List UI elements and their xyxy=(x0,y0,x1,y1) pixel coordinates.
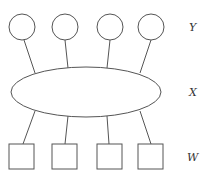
square-node-3 xyxy=(97,144,122,169)
edge-bottom-1 xyxy=(23,111,35,144)
circle-node-3 xyxy=(97,14,123,40)
square-node-2 xyxy=(52,144,77,169)
circle-node-1 xyxy=(9,14,35,40)
label-x: X xyxy=(188,86,198,99)
edge-top-3 xyxy=(107,40,110,68)
edge-bottom-4 xyxy=(140,111,151,144)
edge-top-4 xyxy=(140,40,151,73)
circle-node-2 xyxy=(52,14,78,40)
middle-ellipse-node xyxy=(11,67,161,117)
edge-top-2 xyxy=(65,40,68,68)
square-node-4 xyxy=(138,144,163,169)
top-row-circles xyxy=(9,14,164,40)
edge-bottom-2 xyxy=(65,116,68,144)
label-w: W xyxy=(187,151,200,164)
circle-node-4 xyxy=(138,14,164,40)
bottom-row-squares xyxy=(9,144,163,169)
label-y: Y xyxy=(189,21,198,34)
diagram-canvas: Y X W xyxy=(0,0,210,182)
square-node-1 xyxy=(9,144,34,169)
edge-top-1 xyxy=(24,40,35,73)
edge-bottom-3 xyxy=(107,116,109,144)
